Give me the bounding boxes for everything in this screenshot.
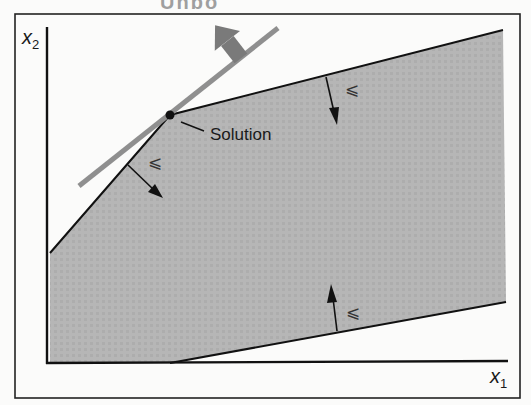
- x2-axis-subscript: 2: [32, 37, 39, 52]
- x1-axis-letter: x: [490, 365, 500, 387]
- constraint-symbol-upper-left: ⩽: [148, 152, 162, 173]
- x2-axis-letter: x: [22, 26, 32, 48]
- solution-label: Solution: [210, 125, 271, 145]
- constraint-symbol-lower: ⩽: [346, 302, 360, 323]
- x2-axis-label: x2: [22, 26, 39, 52]
- constraint-symbol-upper-right: ⩽: [345, 79, 359, 100]
- feasible-region: [50, 30, 506, 363]
- x1-axis-label: x1: [490, 365, 507, 391]
- solution-point: [166, 111, 175, 120]
- lp-feasible-region-diagram: [0, 0, 531, 405]
- objective-direction-arrow-icon: [202, 15, 253, 68]
- x1-axis-subscript: 1: [500, 376, 507, 391]
